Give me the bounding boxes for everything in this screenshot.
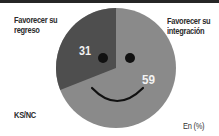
legend-label-regreso: Favorecer su regreso <box>14 15 57 35</box>
left-eye-icon <box>98 53 108 63</box>
legend-label-ksnc: KS/NC <box>14 110 36 120</box>
legend-label-regreso-line1: Favorecer su <box>14 15 57 25</box>
legend-label-integracion-line2: integración <box>167 26 210 36</box>
right-eye-icon <box>125 53 135 63</box>
legend-label-integracion-line1: Favorecer su <box>167 16 210 26</box>
legend-label-regreso-line2: regreso <box>14 25 57 35</box>
unit-label: En (%) <box>183 121 204 131</box>
value-label-integracion: 59 <box>142 72 155 87</box>
legend-label-integracion: Favorecer su integración <box>167 16 210 36</box>
value-label-regreso: 31 <box>79 43 91 58</box>
